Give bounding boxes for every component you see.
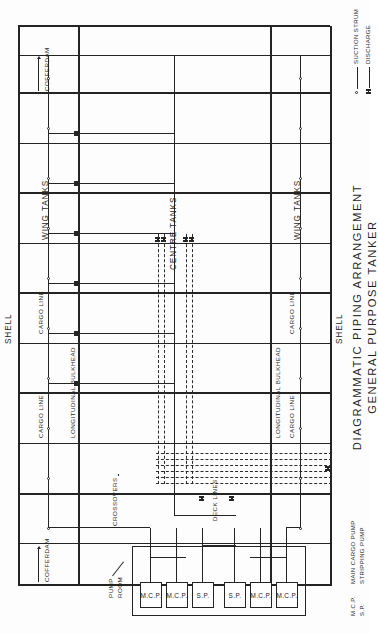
pump-manifold-suction-2 xyxy=(176,528,177,582)
pump-manifold-suction-5 xyxy=(260,528,261,582)
crossover-2 xyxy=(48,333,174,334)
pump-sp-1[interactable]: S.P. xyxy=(192,582,214,608)
pump-mcp-1[interactable]: M.C.P. xyxy=(140,582,162,608)
pump-branch-c xyxy=(250,557,286,558)
suction-strum-u9 xyxy=(47,127,50,130)
discharge-symbol-d4 xyxy=(191,237,193,242)
suction-strum-u10 xyxy=(47,77,50,80)
deck-riser-5 xyxy=(156,459,332,460)
deck-line-4 xyxy=(192,234,193,484)
cofferdam-fwd-leader xyxy=(38,58,39,91)
discharge-symbol-c5 xyxy=(76,181,78,186)
deck-line-2 xyxy=(164,234,165,484)
suction-strum-l6 xyxy=(299,277,302,280)
longitudinal-bulkhead-upper xyxy=(78,26,80,586)
drawing-title-line1: DIAGRAMMATIC PIPING ARRANGEMENT xyxy=(352,127,363,507)
suction-strum-u6 xyxy=(47,277,50,280)
label-cargo-line-upper: CARGO LINE xyxy=(38,395,44,438)
crossovers-leader xyxy=(118,474,119,476)
discharge-icon xyxy=(368,89,370,94)
cofferdam-aft-leader xyxy=(38,548,39,582)
pump-sp-2[interactable]: S.P. xyxy=(224,582,246,608)
pump-label: S.P. xyxy=(229,592,242,599)
longitudinal-bulkhead-lower xyxy=(270,26,272,586)
pump-manifold-suction-6 xyxy=(286,528,287,582)
deck-line-1 xyxy=(158,234,159,484)
discharge-symbol-d2 xyxy=(163,237,165,242)
suction-strum-l10 xyxy=(299,77,302,80)
discharge-symbol-c3 xyxy=(76,281,78,286)
pump-room-leader xyxy=(112,562,124,577)
legend-discharge-label: DISCHARGE xyxy=(365,25,371,64)
legend-abbr-mcp-meaning: MAIN CARGO PUMP xyxy=(350,520,356,584)
pump-mcp-2[interactable]: M.C.P. xyxy=(166,582,188,608)
crossover-5 xyxy=(48,183,174,184)
cofferdam-aft-arrowhead xyxy=(37,546,41,549)
pump-label: M.C.P. xyxy=(166,592,187,599)
suction-strum-u8 xyxy=(47,177,50,180)
suction-strum-u5 xyxy=(47,327,50,330)
crossover-1 xyxy=(48,383,174,384)
pump-mcp-4[interactable]: M.C.P. xyxy=(276,582,298,608)
pump-riser-to-upper-cargo xyxy=(48,527,150,528)
discharge-symbol-c2 xyxy=(76,331,78,336)
discharge-symbol-c4 xyxy=(76,231,78,236)
pump-riser-centre xyxy=(174,515,236,516)
pump-centre-tie xyxy=(174,484,175,516)
suction-strum-l7 xyxy=(299,227,302,230)
cofferdam-fwd-arrowhead xyxy=(37,56,41,59)
pump-label: S.P. xyxy=(197,592,210,599)
label-pump-room-line2: ROOM xyxy=(117,577,123,598)
label-cofferdam-aft: COFFERDAM xyxy=(44,538,50,582)
pump-manifold-suction-1 xyxy=(150,528,151,582)
legend-abbr-sp-meaning: STRIPPING PUMP xyxy=(359,527,365,584)
label-longitudinal-bulkhead-lower: LONGITUDINAL BULKHEAD xyxy=(275,347,281,438)
deck-line-3 xyxy=(186,234,187,484)
suction-strum-l3 xyxy=(299,427,302,430)
label-cargo-line-lower-b: CARGO LINE xyxy=(289,291,295,334)
suction-strum-l8 xyxy=(299,177,302,180)
discharge-symbol-d3 xyxy=(185,237,187,242)
label-cargo-line-upper-b: CARGO LINE xyxy=(38,291,44,334)
label-longitudinal-bulkhead-upper: LONGITUDINAL BULKHEAD xyxy=(70,347,76,438)
suction-strum-l9 xyxy=(299,127,302,130)
pump-manifold-suction-3 xyxy=(202,528,203,582)
legend-abbr-sp: S.P. xyxy=(359,604,365,616)
suction-strum-icon xyxy=(355,91,358,94)
title-block: DIAGRAMMATIC PIPING ARRANGEMENT GENERAL … xyxy=(352,127,374,507)
discharge-symbol-p2 xyxy=(231,496,233,501)
discharge-symbol-c6 xyxy=(76,131,78,136)
deck-riser-2 xyxy=(156,477,332,478)
crossover-6 xyxy=(48,133,174,134)
suction-strum-u2 xyxy=(47,477,50,480)
suction-strum-u3 xyxy=(47,427,50,430)
suction-strum-l5 xyxy=(299,327,302,330)
shell-line-bottom xyxy=(330,26,332,586)
deck-riser-4 xyxy=(156,465,332,466)
discharge-symbol-p3 xyxy=(327,466,329,471)
label-pump-room-line1: PUMP xyxy=(108,578,114,598)
legend-abbr-mcp: M.C.P. xyxy=(350,596,356,616)
label-cargo-line-lower: CARGO LINE xyxy=(289,395,295,438)
pump-label: M.C.P. xyxy=(276,592,297,599)
deck-riser-6 xyxy=(156,453,332,454)
drawing-title-line2: GENERAL PURPOSE TANKER xyxy=(367,127,378,507)
label-shell-bottom: SHELL xyxy=(336,314,344,344)
suction-strum-l4 xyxy=(299,377,302,380)
pump-manifold-suction-4 xyxy=(234,528,235,582)
pump-riser-to-lower-cargo xyxy=(286,527,300,528)
crossover-4 xyxy=(48,233,174,234)
deck-riser-1 xyxy=(156,483,332,484)
pump-label: M.C.P. xyxy=(250,592,271,599)
discharge-symbol-d1 xyxy=(157,237,159,242)
legend-discharge-line xyxy=(369,67,370,88)
pump-branch-a xyxy=(150,557,186,558)
transverse-bulkhead-1 xyxy=(18,543,330,544)
legend-suction-strum-label: SUCTION STRUM xyxy=(353,9,359,64)
pump-mcp-3[interactable]: M.C.P. xyxy=(250,582,272,608)
pump-branch-b xyxy=(202,545,236,546)
pump-label: M.C.P. xyxy=(140,592,161,599)
discharge-symbol-p1 xyxy=(201,496,203,501)
